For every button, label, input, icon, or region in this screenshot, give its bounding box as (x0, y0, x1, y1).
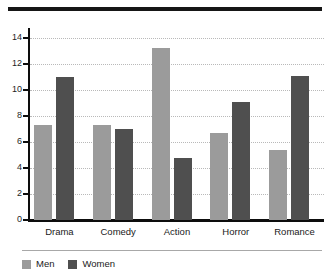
y-axis-tick-label: 4 (6, 163, 22, 172)
y-axis-tick (23, 141, 29, 143)
y-axis-tick-label: 6 (6, 137, 22, 146)
bars-container (30, 24, 324, 220)
plot-area: 02468101214 (0, 24, 331, 224)
bar-romance-men (269, 150, 287, 220)
x-axis-label-romance: Romance (265, 226, 324, 237)
y-axis-tick (23, 219, 29, 221)
bar-group (206, 24, 265, 220)
chart-legend: MenWomen (22, 258, 115, 270)
x-axis-label-horror: Horror (206, 226, 265, 237)
bar-action-women (174, 158, 192, 220)
legend-label-women: Women (82, 259, 115, 269)
x-axis-label-action: Action (148, 226, 207, 237)
bar-horror-men (210, 133, 228, 220)
legend-swatch-women (68, 260, 77, 269)
bar-group (30, 24, 89, 220)
legend-label-men: Men (36, 259, 54, 269)
y-axis-tick-label: 14 (6, 33, 22, 42)
bar-drama-women (56, 77, 74, 220)
y-axis-tick-label: 12 (6, 59, 22, 68)
legend-item-women[interactable]: Women (68, 259, 115, 269)
y-axis-tick (23, 37, 29, 39)
bar-group (265, 24, 324, 220)
bar-comedy-men (93, 125, 111, 220)
bar-chart-figure: 02468101214 DramaComedyActionHorrorRoman… (0, 0, 331, 274)
bar-comedy-women (115, 129, 133, 220)
y-axis-tick (23, 63, 29, 65)
y-axis-tick (23, 115, 29, 117)
y-axis-tick (23, 193, 29, 195)
bar-romance-women (291, 76, 309, 220)
y-axis-tick-label: 2 (6, 189, 22, 198)
x-axis-category-labels: DramaComedyActionHorrorRomance (30, 226, 324, 242)
y-axis-tick-label: 8 (6, 111, 22, 120)
y-axis-tick-label: 10 (6, 85, 22, 94)
legend-divider-rule (22, 250, 322, 251)
bar-action-men (152, 48, 170, 220)
top-divider-rule (8, 7, 322, 11)
bar-drama-men (34, 125, 52, 220)
x-axis-label-drama: Drama (30, 226, 89, 237)
y-axis-tick (23, 89, 29, 91)
x-axis-label-comedy: Comedy (89, 226, 148, 237)
bar-group (89, 24, 148, 220)
legend-swatch-men (22, 260, 31, 269)
bar-horror-women (232, 102, 250, 220)
bar-group (148, 24, 207, 220)
legend-item-men[interactable]: Men (22, 259, 54, 269)
y-axis-tick (23, 167, 29, 169)
y-axis-tick-label: 0 (6, 215, 22, 224)
